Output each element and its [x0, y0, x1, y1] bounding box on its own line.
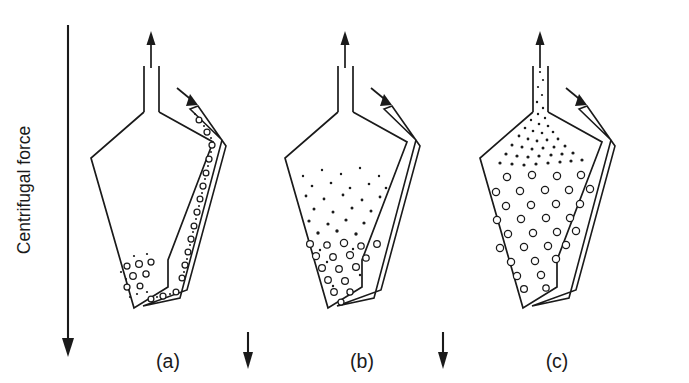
panel-c: (c): [480, 31, 615, 372]
panel-a-inlet-flow-arrow: [177, 88, 198, 106]
centrifugal-bubble-diagram: Centrifugal force: [0, 0, 689, 383]
panel-b: (b): [285, 31, 420, 372]
panel-a-outlet-flow-arrow: [147, 31, 156, 68]
panel-b-label: (b): [350, 350, 374, 372]
panel-c-inlet-flow-arrow: [566, 88, 587, 106]
centrifugal-force-axis: Centrifugal force: [14, 25, 74, 357]
centrifugal-force-label: Centrifugal force: [14, 126, 34, 254]
centrifugal-force-arrowhead: [62, 338, 74, 357]
force-arrow-between-a-b: [243, 332, 253, 369]
panel-b-outlet-flow-arrow: [341, 31, 350, 68]
panel-c-outlet-flow-arrow: [536, 31, 545, 68]
figure-root: Centrifugal force: [0, 0, 689, 383]
panel-a: (a): [91, 31, 226, 372]
panel-b-inlet-flow-arrow: [371, 88, 392, 106]
panel-c-label: (c): [546, 350, 569, 372]
force-arrow-between-b-c: [438, 332, 448, 369]
panel-a-label: (a): [156, 350, 180, 372]
